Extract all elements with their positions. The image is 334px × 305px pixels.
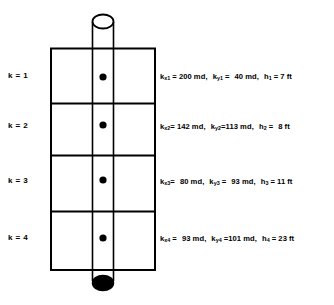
comma-b-4: ,	[255, 234, 257, 243]
h-subscript-2: 2	[264, 125, 267, 131]
ky-unit-1: md	[245, 72, 257, 81]
wellbore	[93, 15, 114, 291]
h-equals-1: =	[274, 72, 279, 81]
h-unit-3: ft	[287, 177, 292, 186]
layer-properties-4: kx4=93md,ky4=101md,h4=23ft	[160, 235, 334, 244]
comma-a-1: ,	[205, 72, 207, 81]
kx-unit-3: md	[191, 177, 203, 186]
layer-index-label-1: k = 1	[8, 71, 50, 80]
ky-unit-2: md	[240, 122, 252, 131]
kx-unit-1: md	[194, 72, 206, 81]
kx-value-2: 142	[177, 122, 190, 131]
comma-a-2: ,	[203, 122, 205, 131]
ky-equals-1: =	[225, 72, 230, 81]
ky-subscript-1: y1	[217, 75, 223, 81]
comma-b-2: ,	[252, 122, 254, 131]
kx-value-3: 80	[180, 177, 189, 186]
layer-properties-2: kx2=142md,ky2=113md,h2=8ft	[160, 123, 334, 132]
comma-b-3: ,	[253, 177, 255, 186]
kx-equals-1: =	[172, 72, 177, 81]
layer-index-label-2: k = 2	[8, 121, 50, 130]
wellbore-top-opening	[93, 15, 114, 29]
h-equals-3: =	[270, 177, 275, 186]
comma-a-3: ,	[202, 177, 204, 186]
h-unit-1: ft	[287, 72, 292, 81]
kx-equals-2: =	[170, 122, 175, 131]
ky-value-4: 101	[228, 234, 241, 243]
ky-subscript-4: y4	[216, 237, 222, 243]
kx-unit-2: md	[192, 122, 204, 131]
perforation-dot-layer-2	[99, 121, 106, 128]
ky-value-1: 40	[235, 72, 244, 81]
perforation-dot-layer-3	[99, 176, 106, 183]
schematic-geometry	[0, 0, 334, 305]
wellbore-bottom-plug	[93, 276, 114, 291]
kx-value-1: 200	[179, 72, 192, 81]
perforation-dot-layer-4	[99, 234, 106, 241]
ky-value-2: 113	[226, 122, 239, 131]
h-subscript-1: 1	[269, 75, 272, 81]
ky-equals-3: =	[222, 177, 227, 186]
h-value-4: 23	[278, 234, 287, 243]
kx-equals-3: =	[170, 177, 175, 186]
comma-a-4: ,	[204, 234, 206, 243]
layer-properties-1: kx1=200md,ky1=40md,h1=7ft	[160, 73, 334, 82]
kx-equals-4: =	[172, 234, 177, 243]
ky-value-3: 93	[231, 177, 240, 186]
layer-index-label-3: k = 3	[8, 176, 50, 185]
ky-unit-4: md	[243, 234, 255, 243]
kx-value-4: 93	[182, 234, 191, 243]
h-equals-2: =	[269, 122, 274, 131]
h-subscript-3: 3	[265, 180, 268, 186]
comma-b-1: ,	[257, 72, 259, 81]
perforation-dots	[99, 73, 106, 241]
reservoir-layer-schematic: k = 1 k = 2 k = 3 k = 4 kx1=200md,ky1=40…	[0, 0, 334, 305]
h-unit-2: ft	[285, 122, 290, 131]
ky-subscript-3: y3	[214, 180, 220, 186]
h-subscript-4: 4	[267, 237, 270, 243]
kx-unit-4: md	[193, 234, 205, 243]
h-value-1: 7	[280, 72, 284, 81]
h-equals-4: =	[272, 234, 277, 243]
perforation-dot-layer-1	[99, 73, 106, 80]
kx-subscript-4: x4	[164, 237, 170, 243]
kx-subscript-1: x1	[164, 75, 170, 81]
h-unit-4: ft	[289, 234, 294, 243]
layer-index-label-4: k = 4	[8, 233, 50, 242]
layer-properties-3: kx3=80md,ky3=93md,h3=11ft	[160, 178, 334, 187]
h-value-3: 11	[277, 177, 285, 186]
h-value-2: 8	[278, 122, 282, 131]
ky-unit-3: md	[242, 177, 254, 186]
